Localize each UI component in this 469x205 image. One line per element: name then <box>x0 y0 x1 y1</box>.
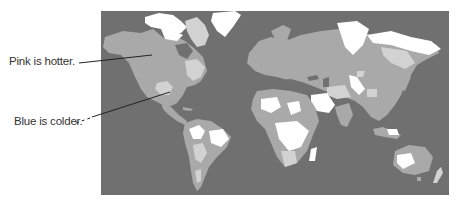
label-pink-is-hotter: Pink is hotter. <box>9 55 75 67</box>
label-blue-is-colder: Blue is colder. <box>14 115 83 127</box>
world-map <box>101 11 449 195</box>
